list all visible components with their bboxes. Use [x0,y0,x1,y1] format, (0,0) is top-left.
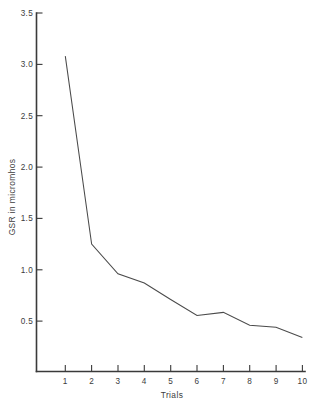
gsr-line-chart: 3.5 3.0 2.5 2.0 1.5 1.0 0.5 GSR in micro… [0,0,313,403]
gsr-data-line [65,56,302,337]
x-tick-label-9: 9 [274,377,279,386]
x-axis-tick-labels: 1 2 3 4 5 6 7 8 9 10 [63,377,308,386]
y-axis-tick-labels: 3.5 3.0 2.5 2.0 1.5 1.0 0.5 [21,9,33,326]
x-axis-group: 1 2 3 4 5 6 7 8 9 10 Trials [37,365,308,400]
x-tick-label-8: 8 [247,377,252,386]
y-tick-label-3.0: 3.0 [21,60,33,69]
y-tick-label-2.0: 2.0 [21,163,33,172]
x-tick-label-10: 10 [298,377,308,386]
x-tick-label-1: 1 [63,377,68,386]
x-tick-label-7: 7 [221,377,226,386]
x-tick-label-5: 5 [168,377,173,386]
y-axis-ticks [37,13,43,321]
x-tick-label-4: 4 [142,377,147,386]
x-tick-label-2: 2 [89,377,94,386]
y-axis-group: 3.5 3.0 2.5 2.0 1.5 1.0 0.5 GSR in micro… [7,9,43,372]
x-tick-label-3: 3 [116,377,121,386]
y-tick-label-0.5: 0.5 [21,317,33,326]
y-tick-label-1.5: 1.5 [21,214,33,223]
chart-canvas: 3.5 3.0 2.5 2.0 1.5 1.0 0.5 GSR in micro… [0,0,313,403]
x-axis-title: Trials [161,390,184,400]
y-tick-label-2.5: 2.5 [21,112,33,121]
y-tick-label-1.0: 1.0 [21,266,33,275]
y-axis-title: GSR in micromhos [7,159,17,236]
y-tick-label-3.5: 3.5 [21,9,33,18]
x-axis-ticks [65,365,302,372]
x-tick-label-6: 6 [195,377,200,386]
